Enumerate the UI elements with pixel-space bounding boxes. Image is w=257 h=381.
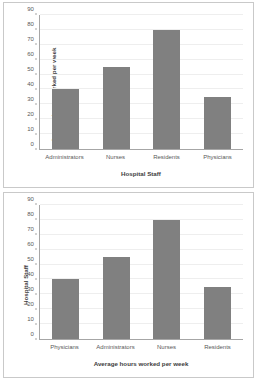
x-tick-label: Administrators (90, 341, 141, 353)
bar-slot (40, 15, 91, 149)
plot-area-top (39, 15, 243, 150)
y-tick-label: 90 (27, 6, 34, 12)
y-tick-label: 0 (31, 141, 34, 147)
y-tick-label: 80 (27, 21, 34, 27)
y-tick-mark (35, 104, 37, 105)
bar-residents (153, 30, 180, 149)
x-tick-label: Residents (141, 151, 192, 163)
bar-slot (91, 15, 142, 149)
x-axis-title-top: Hospital Staff (39, 170, 243, 177)
bar-residents (204, 287, 231, 339)
y-tick-label: 20 (27, 111, 34, 117)
y-tick-label: 70 (27, 36, 34, 42)
y-tick-label: 60 (27, 51, 34, 57)
y-tick-mark (35, 29, 37, 30)
chart-panel-top: Average hours worked per week 0102030405… (3, 2, 254, 188)
x-axis-labels-bottom: PhysiciansAdministratorsNursesResidents (39, 341, 243, 353)
y-tick-label: 50 (27, 66, 34, 72)
y-tick-mark (35, 279, 37, 280)
y-tick-mark (35, 204, 37, 205)
y-tick-label: 30 (27, 96, 34, 102)
y-tick-mark (35, 234, 37, 235)
bar-slot (142, 205, 193, 339)
x-tick-label: Nurses (141, 341, 192, 353)
x-axis-labels-top: AdministratorsNursesResidentsPhysicians (39, 151, 243, 163)
chart-panel-bottom: Hospital Staff 0102030405060708090 Physi… (3, 192, 254, 378)
y-tick-mark (35, 149, 37, 150)
y-tick-label: 10 (27, 126, 34, 132)
y-tick-mark (35, 294, 37, 295)
y-axis-ticks-bottom: 0102030405060708090 (4, 205, 37, 340)
bar-administrators (52, 89, 79, 149)
y-axis-ticks-top: 0102030405060708090 (4, 15, 37, 150)
x-tick-label: Residents (192, 341, 243, 353)
y-tick-label: 60 (27, 241, 34, 247)
y-tick-label: 40 (27, 81, 34, 87)
y-tick-label: 20 (27, 301, 34, 307)
chart-page: Average hours worked per week 0102030405… (0, 0, 257, 381)
bar-administrators (103, 257, 130, 339)
x-tick-label: Physicians (192, 151, 243, 163)
y-tick-mark (35, 324, 37, 325)
bar-slot (192, 205, 243, 339)
y-tick-label: 10 (27, 316, 34, 322)
y-tick-mark (35, 264, 37, 265)
y-tick-mark (35, 249, 37, 250)
y-tick-mark (35, 74, 37, 75)
y-tick-mark (35, 14, 37, 15)
x-tick-label: Administrators (39, 151, 90, 163)
y-tick-mark (35, 44, 37, 45)
y-tick-mark (35, 219, 37, 220)
bar-slot (192, 15, 243, 149)
plot-area-bottom (39, 205, 243, 340)
bar-slot (142, 15, 193, 149)
y-tick-mark (35, 134, 37, 135)
bar-slot (91, 205, 142, 339)
y-tick-label: 0 (31, 331, 34, 337)
bar-physicians (52, 279, 79, 339)
bar-nurses (103, 67, 130, 149)
y-tick-mark (35, 89, 37, 90)
bar-chart-bottom: Hospital Staff 0102030405060708090 Physi… (4, 193, 253, 377)
y-tick-mark (35, 309, 37, 310)
bar-nurses (153, 220, 180, 339)
y-tick-label: 80 (27, 211, 34, 217)
bar-physicians (204, 97, 231, 149)
bar-series-top (40, 15, 243, 149)
y-tick-label: 30 (27, 286, 34, 292)
bar-chart-top: Average hours worked per week 0102030405… (4, 3, 253, 187)
y-tick-label: 50 (27, 256, 34, 262)
y-tick-label: 90 (27, 196, 34, 202)
x-tick-label: Physicians (39, 341, 90, 353)
y-tick-mark (35, 339, 37, 340)
y-tick-mark (35, 59, 37, 60)
y-tick-mark (35, 119, 37, 120)
y-tick-label: 40 (27, 271, 34, 277)
x-axis-title-bottom: Average hours worked per week (39, 360, 243, 367)
y-tick-label: 70 (27, 226, 34, 232)
x-tick-label: Nurses (90, 151, 141, 163)
bar-series-bottom (40, 205, 243, 339)
bar-slot (40, 205, 91, 339)
